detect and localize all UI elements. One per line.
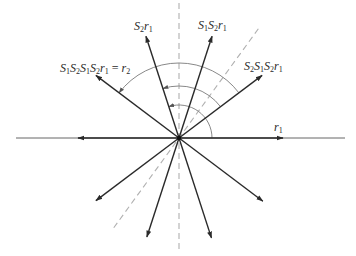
label-s2s1s2r1: S2S1S2r1	[244, 60, 283, 74]
vector-lower-right-1	[179, 138, 263, 201]
label-s1s2r1: S1S2r1	[198, 19, 227, 33]
vector-lower-left-1	[96, 138, 179, 201]
mirror-diagonal-line	[111, 29, 258, 231]
mirror-lines	[111, 3, 258, 253]
label-s2r1: S2r1	[134, 20, 153, 34]
vector-lower-left-2	[147, 138, 179, 237]
vector-r2	[96, 75, 179, 138]
label-r2: S1S2S1S2r1 = r2	[60, 62, 130, 76]
vector-s2r1	[146, 36, 179, 138]
vector-s1s2r1	[179, 36, 212, 138]
vector-s2s1s2r1	[179, 75, 262, 138]
root-system-diagram	[0, 0, 356, 256]
vector-lower-right-2	[179, 138, 211, 238]
arc-middle	[163, 86, 221, 107]
label-r1: r1	[274, 121, 283, 135]
origin-point	[177, 136, 181, 140]
